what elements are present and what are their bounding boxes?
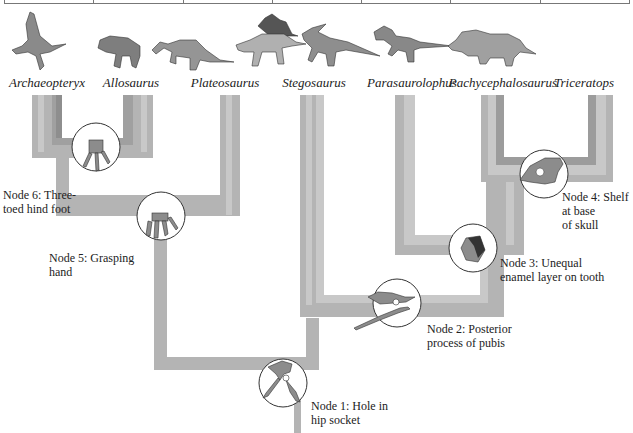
archaeopteryx-illustration bbox=[12, 12, 66, 70]
node-1-label-line1: Node 1: Hole in bbox=[311, 399, 388, 413]
node-2-label-line2: process of pubis bbox=[427, 336, 512, 350]
taxon-label-triceratops: Triceratops bbox=[554, 75, 614, 91]
node-6-label-line2: toed hind foot bbox=[3, 202, 76, 216]
node-4-label-line2: at base bbox=[562, 204, 629, 218]
taxon-label-stegosaurus: Stegosaurus bbox=[282, 75, 346, 91]
node-1-circle[interactable] bbox=[259, 359, 307, 407]
node-5-label-line1: Node 5: Grasping bbox=[49, 251, 134, 265]
node-4-label-line3: of skull bbox=[562, 218, 629, 232]
taxon-label-archaeopteryx: Archaeopteryx bbox=[9, 75, 85, 91]
node-3-label-line2: enamel layer on tooth bbox=[500, 270, 604, 284]
node-4-label-line1: Node 4: Shelf bbox=[562, 190, 629, 204]
node-4-circle[interactable] bbox=[520, 150, 568, 198]
node-2-label: Node 2: Posterior process of pubis bbox=[427, 322, 512, 350]
node-1-label-line2: hip socket bbox=[311, 413, 388, 427]
triceratops-illustration bbox=[448, 30, 536, 66]
node-6-label: Node 6: Three- toed hind foot bbox=[3, 188, 76, 216]
node-3-circle[interactable] bbox=[449, 224, 497, 272]
cladogram bbox=[0, 0, 633, 433]
node-6-circle[interactable] bbox=[72, 123, 120, 171]
taxon-label-pachycephalosaurus: Pachycephalosaurus bbox=[449, 75, 557, 91]
node-2-label-line1: Node 2: Posterior bbox=[427, 322, 512, 336]
node-3-label-line1: Node 3: Unequal bbox=[500, 256, 604, 270]
parasaurolophus-illustration bbox=[302, 24, 380, 66]
node-5-label-line2: hand bbox=[49, 265, 134, 279]
taxon-label-parasaurolophus: Parasaurolophus bbox=[367, 75, 457, 91]
stegosaurus-illustration bbox=[236, 14, 306, 66]
node-1-label: Node 1: Hole in hip socket bbox=[311, 399, 388, 427]
node-3-label: Node 3: Unequal enamel layer on tooth bbox=[500, 256, 604, 284]
plateosaurus-illustration bbox=[152, 40, 234, 70]
pachycephalosaurus-illustration bbox=[374, 26, 452, 62]
node-5-label: Node 5: Grasping hand bbox=[49, 251, 134, 279]
taxon-label-allosaurus: Allosaurus bbox=[103, 75, 159, 91]
node-5-circle[interactable] bbox=[137, 192, 185, 240]
node-4-label: Node 4: Shelf at base of skull bbox=[562, 190, 629, 232]
node-6-label-line1: Node 6: Three- bbox=[3, 188, 76, 202]
allosaurus-illustration bbox=[98, 36, 140, 68]
taxon-label-plateosaurus: Plateosaurus bbox=[191, 75, 260, 91]
